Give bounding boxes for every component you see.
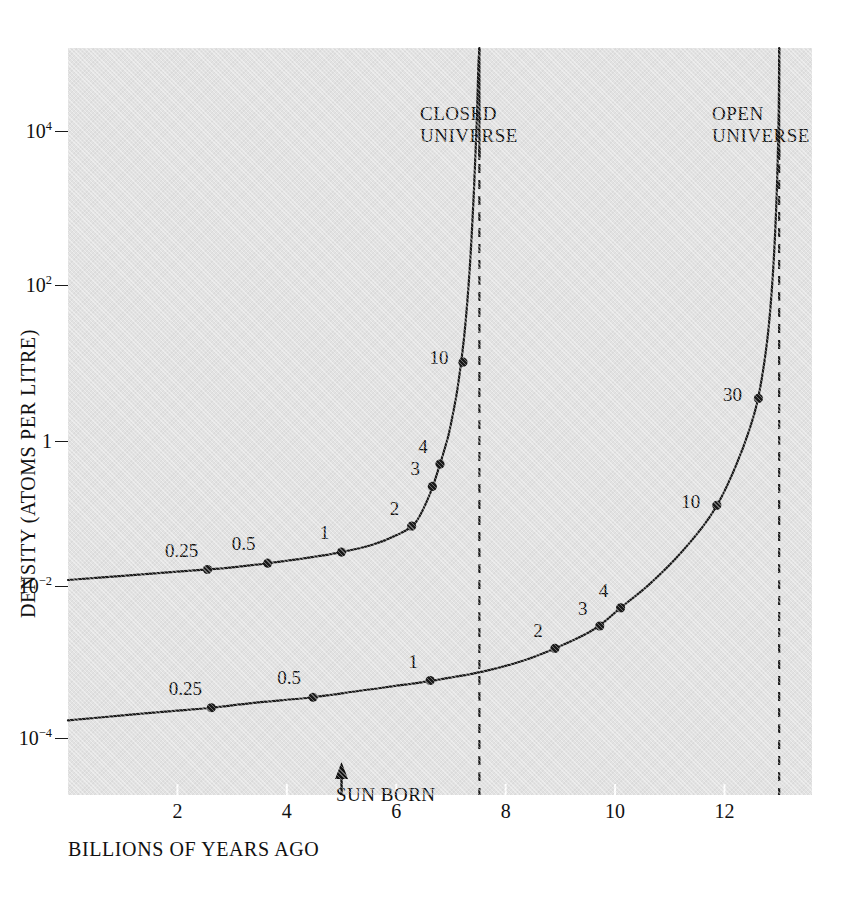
- data-point-label-open-universe-4: 4: [599, 580, 609, 599]
- data-point-open-universe-3: [595, 621, 604, 630]
- data-point-label-closed-universe-2: 2: [390, 499, 400, 518]
- curve-open-universe: [68, 48, 779, 720]
- x-tick-label-10: 10: [605, 801, 625, 821]
- data-point-label-closed-universe-3: 3: [411, 459, 421, 478]
- data-point-label-closed-universe-4: 4: [418, 437, 428, 456]
- data-point-open-universe-4: [616, 603, 625, 612]
- data-point-label-closed-universe-0.5: 0.5: [232, 534, 256, 553]
- x-tick-label-12: 12: [714, 801, 734, 821]
- data-point-label-open-universe-30: 30: [723, 385, 742, 404]
- data-point-label-open-universe-1: 1: [408, 651, 418, 670]
- data-point-label-open-universe-0.5: 0.5: [277, 668, 301, 687]
- y-tick-label-1e2: 102: [26, 275, 52, 295]
- curve-closed-universe: [68, 48, 479, 580]
- data-point-label-open-universe-3: 3: [578, 599, 588, 618]
- open-universe-label-line2: UNIVERSE: [712, 125, 810, 147]
- sun-born-arrow-head: [335, 762, 348, 779]
- data-point-label-closed-universe-1: 1: [320, 523, 330, 542]
- data-point-label-open-universe-0.25: 0.25: [169, 678, 202, 697]
- data-point-label-open-universe-10: 10: [681, 492, 700, 511]
- x-tick-label-2: 2: [172, 801, 182, 821]
- curve-lines: [68, 48, 779, 720]
- y-tick-label-1: 1: [42, 431, 52, 451]
- asymptote-lines: [177, 48, 779, 795]
- data-point-closed-universe-2: [407, 522, 416, 531]
- data-point-closed-universe-0.25: [203, 565, 212, 574]
- data-point-markers: [203, 358, 763, 713]
- y-tick-mark-1e4: [55, 131, 68, 132]
- y-tick-mark-1: [55, 441, 68, 442]
- data-point-label-closed-universe-10: 10: [429, 348, 448, 367]
- data-point-closed-universe-4: [435, 459, 444, 468]
- data-point-closed-universe-10: [458, 358, 467, 367]
- y-tick-mark-1e-2: [55, 586, 68, 587]
- open-universe-label: OPEN UNIVERSE: [712, 103, 810, 148]
- data-point-label-closed-universe-0.25: 0.25: [165, 540, 198, 559]
- closed-universe-label-line2: UNIVERSE: [420, 125, 518, 147]
- data-point-closed-universe-0.5: [263, 559, 272, 568]
- y-tick-label-1e4: 104: [26, 121, 52, 141]
- data-point-closed-universe-1: [337, 547, 346, 556]
- x-tick-label-6: 6: [391, 801, 401, 821]
- x-tick-label-8: 8: [501, 801, 511, 821]
- data-point-closed-universe-3: [428, 482, 437, 491]
- figure: 104 102 1 10−2 10−4 CLOSED UNIVERSE OPEN…: [0, 0, 843, 918]
- y-tick-mark-1e2: [55, 285, 68, 286]
- plot-area: CLOSED UNIVERSE OPEN UNIVERSE SUN BORN 0…: [68, 48, 812, 795]
- x-axis-tick-labels: 24681012: [68, 801, 812, 831]
- data-point-open-universe-1: [426, 676, 435, 685]
- data-point-open-universe-2: [550, 644, 559, 653]
- y-tick-label-1e-4: 10−4: [19, 728, 52, 748]
- y-tick-mark-1e-4: [55, 738, 68, 739]
- data-point-open-universe-0.5: [308, 693, 317, 702]
- x-axis-title: BILLIONS OF YEARS AGO: [68, 838, 319, 861]
- data-point-label-open-universe-2: 2: [533, 621, 543, 640]
- x-tick-label-4: 4: [282, 801, 292, 821]
- closed-universe-label-line1: CLOSED: [420, 103, 518, 125]
- data-point-open-universe-0.25: [207, 703, 216, 712]
- data-point-open-universe-10: [712, 501, 721, 510]
- open-universe-label-line1: OPEN: [712, 103, 810, 125]
- data-point-open-universe-30: [754, 394, 763, 403]
- closed-universe-label: CLOSED UNIVERSE: [420, 103, 518, 148]
- y-axis-title: DENSITY (ATOMS PER LITRE): [17, 309, 40, 639]
